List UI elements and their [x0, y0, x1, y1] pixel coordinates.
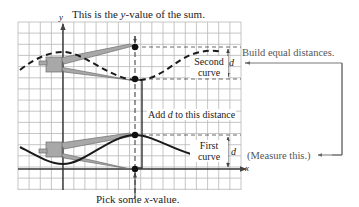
build-equal-distances-note: Build equal distances. [242, 47, 334, 58]
first-curve-label: First curve [190, 140, 228, 162]
pick-x-caption: Pick some x-value. [96, 194, 179, 205]
d-label-bottom: d [231, 146, 236, 157]
sum-caption: This is the y-value of the sum. [72, 9, 205, 20]
y-axis-label: y [59, 12, 63, 23]
compass-top-icon [39, 44, 133, 80]
add-d-caption: Add d to this distance [147, 109, 236, 120]
curve-addition-diagram [0, 0, 359, 207]
sum-point [132, 44, 138, 50]
measure-this-note: (Measure this.) [247, 150, 311, 161]
first-curve-point [132, 132, 138, 138]
x-axis-label: x [245, 163, 249, 174]
connector-line [246, 63, 342, 155]
d-label-top: d [229, 57, 234, 68]
second-curve-point [132, 76, 138, 82]
distance-bracket [138, 80, 142, 168]
second-curve-label: Second curve [190, 56, 228, 78]
x-axis-point [132, 166, 138, 172]
